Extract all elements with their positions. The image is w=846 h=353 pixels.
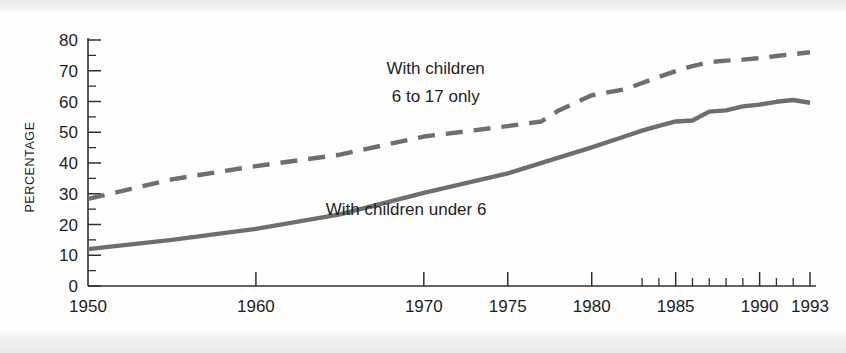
- series-group: [88, 52, 810, 249]
- x-tick-label-1975: 1975: [489, 297, 527, 316]
- y-tick-label-50: 50: [59, 123, 78, 142]
- y-tick-label-30: 30: [59, 185, 78, 204]
- y-axis-title: PERCENTAGE: [23, 121, 37, 212]
- line-chart: 01020304050607080 1950196019701975198019…: [0, 0, 846, 353]
- y-tick-label-80: 80: [59, 31, 78, 50]
- solid-series-label: With children under 6: [326, 200, 487, 219]
- y-tick-label-0: 0: [69, 277, 78, 296]
- dashed-series-label-line2: 6 to 17 only: [392, 87, 480, 106]
- x-axis-tick-labels: 19501960197019751980198519901993: [69, 297, 829, 316]
- x-tick-label-1993: 1993: [791, 297, 829, 316]
- x-axis-major-ticks: [256, 272, 810, 286]
- y-tick-label-70: 70: [59, 62, 78, 81]
- y-tick-label-40: 40: [59, 154, 78, 173]
- series-line-children-under-6: [88, 100, 810, 249]
- x-tick-label-1980: 1980: [573, 297, 611, 316]
- y-tick-label-10: 10: [59, 246, 78, 265]
- x-tick-label-1985: 1985: [657, 297, 695, 316]
- figure-container: 01020304050607080 1950196019701975198019…: [0, 0, 846, 353]
- x-axis-minor-ticks: [642, 278, 793, 286]
- y-tick-label-60: 60: [59, 93, 78, 112]
- x-tick-label-1950: 1950: [69, 297, 107, 316]
- y-axis-tick-labels: 01020304050607080: [59, 31, 78, 296]
- x-tick-label-1960: 1960: [237, 297, 275, 316]
- x-tick-label-1970: 1970: [405, 297, 443, 316]
- y-tick-label-20: 20: [59, 216, 78, 235]
- dashed-series-label-line1: With children: [387, 59, 485, 78]
- x-tick-label-1990: 1990: [741, 297, 779, 316]
